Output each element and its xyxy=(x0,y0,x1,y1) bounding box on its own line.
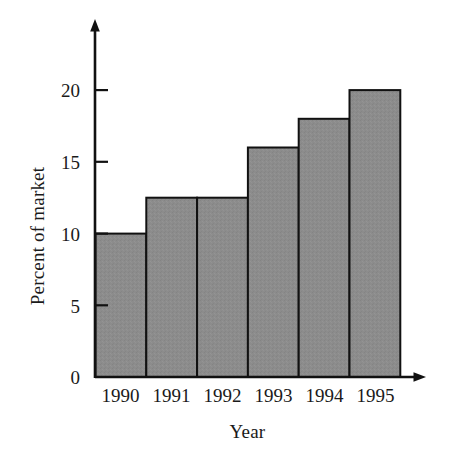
bar-1991 xyxy=(146,198,197,377)
x-tick-label-1991: 1991 xyxy=(146,386,197,405)
bar-1995 xyxy=(350,90,401,377)
x-tick-label-1995: 1995 xyxy=(350,386,401,405)
x-tick-label-1993: 1993 xyxy=(248,386,299,405)
bars-group xyxy=(96,90,401,377)
x-tick-label-1994: 1994 xyxy=(299,386,350,405)
bar-1992 xyxy=(197,198,248,377)
bar-1993 xyxy=(248,148,299,378)
bar-chart: Percent of market 20 15 10 5 0 xyxy=(0,0,469,462)
x-tick-label-1992: 1992 xyxy=(197,386,248,405)
x-axis-title: Year xyxy=(95,421,400,443)
x-tick-label-1990: 1990 xyxy=(95,386,146,405)
bar-1994 xyxy=(299,119,350,377)
